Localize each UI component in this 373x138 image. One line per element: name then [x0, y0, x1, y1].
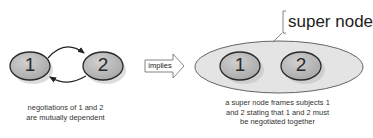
edge-2-to-1 [50, 76, 86, 82]
left-caption-line-1: negotiations of 1 and 2 [8, 103, 123, 113]
super-node-label: super node [288, 12, 373, 32]
right-node-2-label: 2 [291, 54, 311, 76]
left-caption-line-2: are mutually dependent [8, 113, 123, 123]
right-caption-line-1: a super node frames subjects 1 [200, 98, 355, 108]
right-caption: a super node frames subjects 1 and 2 sta… [200, 98, 355, 127]
left-caption: negotiations of 1 and 2 are mutually dep… [8, 103, 123, 122]
left-node-1-label: 1 [20, 54, 40, 76]
super-node-bracket [283, 11, 286, 33]
edge-1-to-2 [48, 47, 84, 58]
right-caption-line-3: be negotiated together [200, 117, 355, 127]
right-node-1-label: 1 [230, 54, 250, 76]
right-caption-line-2: and 2 stating that 1 and 2 must [200, 108, 355, 118]
implies-label: implies [147, 61, 173, 70]
left-node-2-label: 2 [93, 54, 113, 76]
